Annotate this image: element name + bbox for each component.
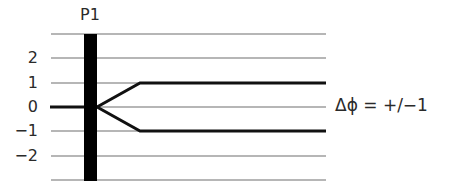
y-tick-2: 2 (14, 50, 38, 66)
marker-label-p1: P1 (80, 7, 100, 23)
phase-diagram (0, 0, 450, 187)
y-tick-minus-1: −1 (14, 123, 38, 139)
phase-shift-annotation: Δϕ = +/−1 (335, 97, 428, 113)
y-tick-minus-2: −2 (14, 148, 38, 164)
y-tick-1: 1 (14, 75, 38, 91)
branch-up-path (97, 83, 326, 107)
y-tick-0: 0 (14, 99, 38, 115)
p1-barrier-bar (84, 34, 97, 181)
branch-down-path (97, 107, 326, 131)
